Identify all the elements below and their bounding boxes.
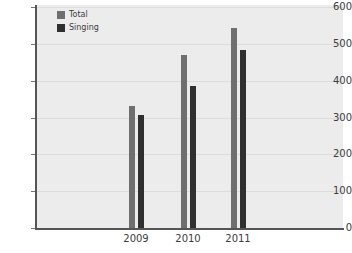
y-tick-label-200: 200 xyxy=(322,149,352,159)
bar-singing-2011 xyxy=(240,50,246,228)
legend-swatch-icon-singing xyxy=(57,24,65,32)
y-tick-mark-400 xyxy=(31,81,35,82)
y-tick-label-400: 400 xyxy=(322,76,352,86)
y-tick-label-600: 600 xyxy=(322,2,352,12)
legend-item-total: Total xyxy=(57,9,99,20)
bar-total-2010 xyxy=(181,55,187,228)
y-tick-mark-200 xyxy=(31,154,35,155)
chart-legend: TotalSinging xyxy=(57,9,99,35)
legend-label-singing: Singing xyxy=(69,23,99,32)
bar-singing-2009 xyxy=(138,115,144,228)
gridline-600 xyxy=(36,7,343,8)
bar-total-2011 xyxy=(231,28,237,228)
y-tick-label-300: 300 xyxy=(322,113,352,123)
gridline-500 xyxy=(36,44,343,45)
legend-item-singing: Singing xyxy=(57,22,99,33)
x-tick-label-2011: 2011 xyxy=(211,233,265,244)
y-tick-label-100: 100 xyxy=(322,186,352,196)
y-tick-mark-100 xyxy=(31,191,35,192)
x-axis-line xyxy=(35,228,344,230)
bar-singing-2010 xyxy=(190,86,196,228)
legend-label-total: Total xyxy=(69,10,88,19)
y-tick-label-500: 500 xyxy=(322,39,352,49)
y-axis-line xyxy=(35,5,37,229)
gridline-400 xyxy=(36,81,343,82)
plot-area xyxy=(36,5,343,228)
y-tick-mark-600 xyxy=(31,7,35,8)
x-tick-label-2009: 2009 xyxy=(109,233,163,244)
legend-swatch-icon-total xyxy=(57,11,65,19)
y-tick-label-0: 0 xyxy=(322,223,352,233)
bar-chart: 6005004003002001000 200920102011 TotalSi… xyxy=(0,0,352,253)
y-tick-mark-300 xyxy=(31,118,35,119)
bar-total-2009 xyxy=(129,106,135,228)
x-tick-label-2010: 2010 xyxy=(161,233,215,244)
y-tick-mark-0 xyxy=(31,228,35,229)
y-tick-mark-500 xyxy=(31,44,35,45)
